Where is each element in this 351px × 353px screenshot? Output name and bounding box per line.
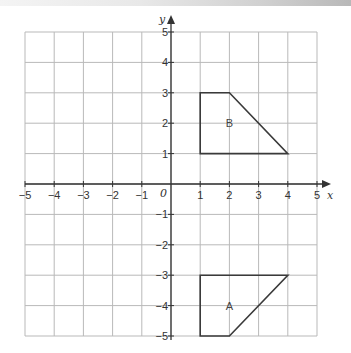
x-tick-label: 3: [256, 189, 262, 201]
origin-label: 0: [160, 187, 167, 200]
y-tick-label: 3: [162, 87, 168, 99]
y-tick-label: −4: [155, 300, 168, 312]
y-tick-label: 1: [162, 148, 168, 160]
coordinate-grid: x y 0 −5−4−3−2−11234554321−1−2−3−4−5 BA: [0, 0, 351, 353]
y-tick-label: −5: [155, 330, 168, 342]
y-tick-label: 2: [162, 117, 168, 129]
y-tick-label: −2: [155, 239, 168, 251]
shape-a-label: A: [226, 300, 234, 312]
x-tick-label: 1: [197, 189, 203, 201]
x-axis-label: x: [327, 189, 334, 202]
x-tick-label: 2: [226, 189, 232, 201]
x-tick-label: −2: [106, 189, 119, 201]
x-tick-label: 5: [314, 189, 320, 201]
y-tick-label: 4: [162, 56, 168, 68]
shape-b-label: B: [226, 117, 233, 129]
x-tick-label: −3: [77, 189, 90, 201]
x-axis-arrow-icon: [322, 180, 331, 188]
y-tick-label: −1: [155, 208, 168, 220]
x-tick-label: 4: [285, 189, 291, 201]
y-axis-label: y: [158, 13, 166, 26]
x-tick-label: −4: [48, 189, 61, 201]
x-tick-label: −5: [19, 189, 32, 201]
y-tick-label: 5: [162, 26, 168, 38]
y-tick-label: −3: [155, 269, 168, 281]
y-axis-arrow-icon: [167, 15, 175, 24]
x-tick-label: −1: [136, 189, 149, 201]
